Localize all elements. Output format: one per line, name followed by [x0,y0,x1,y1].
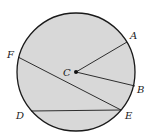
center-point [74,70,78,74]
label-b: B [136,84,144,95]
label-c: C [63,67,71,78]
label-d: D [15,110,24,121]
label-f: F [6,49,15,60]
label-a: A [129,30,137,41]
circle-diagram: A B C D E F [0,0,150,139]
label-e: E [124,110,133,121]
